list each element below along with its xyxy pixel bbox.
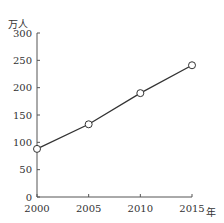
data-series bbox=[34, 62, 196, 153]
series-line bbox=[37, 65, 192, 149]
y-axis-unit-label: 万人 bbox=[8, 19, 28, 30]
y-tick-label: 250 bbox=[13, 55, 32, 66]
y-tick-label: 0 bbox=[26, 192, 32, 203]
y-tick-label: 200 bbox=[13, 82, 32, 93]
y-tick-label: 50 bbox=[19, 164, 32, 175]
data-point-marker bbox=[85, 121, 92, 128]
x-tick-label: 2015 bbox=[179, 203, 204, 214]
data-point-marker bbox=[189, 62, 196, 69]
y-tick-label: 150 bbox=[13, 110, 32, 121]
data-point-marker bbox=[34, 145, 41, 152]
data-point-marker bbox=[137, 90, 144, 97]
x-tick-label: 2005 bbox=[76, 203, 101, 214]
x-axis-unit-label: 年 bbox=[206, 206, 216, 218]
y-axis: 050100150200250300 bbox=[13, 28, 40, 203]
x-tick-label: 2010 bbox=[128, 203, 153, 214]
x-tick-label: 2000 bbox=[24, 203, 49, 214]
x-axis: 2000200520102015 bbox=[24, 194, 204, 214]
y-tick-label: 100 bbox=[13, 137, 32, 148]
line-chart: 050100150200250300 2000200520102015 万人 年 bbox=[0, 0, 224, 223]
